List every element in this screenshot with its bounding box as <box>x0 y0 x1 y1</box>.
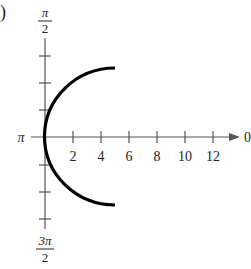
angle-label-right: 0 <box>244 130 251 145</box>
polar-graph: ) 2 4 6 8 10 12 π 2 π 3π 2 <box>0 0 251 269</box>
tick-label: 4 <box>98 149 105 164</box>
polar-axis-tick-labels: 2 4 6 8 10 12 <box>70 149 221 164</box>
angle-label-left: π <box>17 130 25 145</box>
angle-bottom-denominator: 2 <box>42 250 49 265</box>
angle-top-numerator: π <box>42 5 49 20</box>
arrow-right-icon <box>229 133 240 141</box>
tick-label: 8 <box>154 149 161 164</box>
angle-label-top: π 2 <box>38 5 52 36</box>
tick-label: 2 <box>70 149 77 164</box>
angle-label-bottom: 3π 2 <box>36 233 54 265</box>
figure-part-label: ) <box>0 2 6 23</box>
tick-label: 12 <box>206 149 220 164</box>
tick-label: 10 <box>178 149 192 164</box>
tick-label: 6 <box>126 149 133 164</box>
angle-top-denominator: 2 <box>42 21 49 36</box>
angle-bottom-numerator: 3π <box>37 233 52 248</box>
